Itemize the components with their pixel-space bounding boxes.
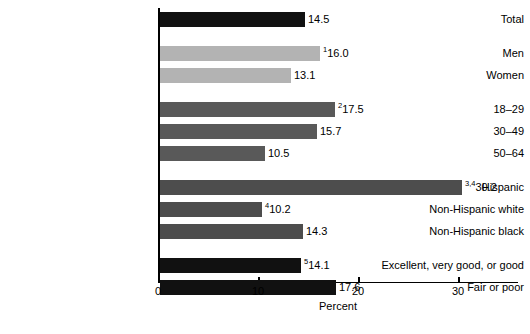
bar xyxy=(160,12,305,27)
bar-value-label: 10.5 xyxy=(268,146,289,161)
x-axis-tick-label: 30 xyxy=(438,285,478,297)
x-axis-tick-label: 10 xyxy=(238,285,278,297)
bar xyxy=(160,224,303,239)
bar-value-label: 3,430.2 xyxy=(465,180,497,195)
footnote-superscript: 3,4 xyxy=(465,179,475,188)
bar-chart: TotalMenWomen18–2930–4950–64HispanicNon-… xyxy=(0,0,530,334)
bar xyxy=(160,202,262,217)
bar xyxy=(160,258,301,273)
bar-value-label: 116.0 xyxy=(323,46,349,61)
bar xyxy=(160,46,320,61)
bar-value-label: 15.7 xyxy=(320,124,341,139)
bar xyxy=(160,124,317,139)
footnote-superscript: 2 xyxy=(338,101,342,110)
bar xyxy=(160,102,335,117)
x-axis-tick-label: 20 xyxy=(338,285,378,297)
bar xyxy=(160,68,291,83)
x-axis-tick-label: 0 xyxy=(138,285,178,297)
bar xyxy=(160,180,462,195)
footnote-superscript: 5 xyxy=(304,257,308,266)
footnote-superscript: 1 xyxy=(323,45,327,54)
x-axis-tick xyxy=(458,277,460,283)
footnote-superscript: 4 xyxy=(265,201,269,210)
bar xyxy=(160,146,265,161)
bar-value-label: 14.5 xyxy=(308,12,329,27)
bar-value-label: 13.1 xyxy=(294,68,315,83)
x-axis-title: Percent xyxy=(158,300,518,312)
bar-value-label: 217.5 xyxy=(338,102,364,117)
bar-value-label: 410.2 xyxy=(265,202,291,217)
bar-value-label: 514.1 xyxy=(304,258,330,273)
bar-value-label: 14.3 xyxy=(306,224,327,239)
